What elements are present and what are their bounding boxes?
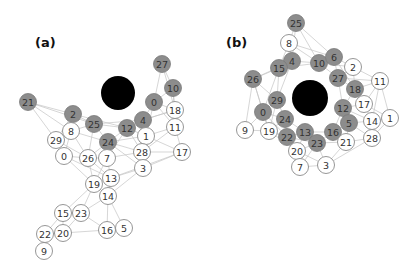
node-label: 18 xyxy=(349,84,361,95)
network-node: 11 xyxy=(167,119,184,136)
node-label: 11 xyxy=(169,122,181,133)
network-node: 24 xyxy=(100,134,117,151)
panel-a-label: (a) xyxy=(35,35,56,50)
node-label: 21 xyxy=(340,137,352,148)
network-node: 6 xyxy=(326,49,343,66)
node-label: 4 xyxy=(140,115,146,126)
network-node: 28 xyxy=(364,130,381,147)
network-node: 8 xyxy=(63,123,80,140)
network-node: 2 xyxy=(345,59,362,76)
node-label: 25 xyxy=(88,119,100,130)
network-node: 10 xyxy=(165,80,182,97)
node-label: 17 xyxy=(358,99,370,110)
network-node: 23 xyxy=(309,135,326,152)
node-label: 10 xyxy=(167,83,179,94)
network-node: 19 xyxy=(261,123,278,140)
node-label: 22 xyxy=(39,229,51,240)
network-node: 13 xyxy=(103,170,120,187)
node-label: 16 xyxy=(101,225,113,236)
network-node: 18 xyxy=(167,102,184,119)
node-label: 13 xyxy=(105,173,117,184)
network-node: 25 xyxy=(288,15,305,32)
panel-b-label: (b) xyxy=(226,35,247,50)
node-label: 3 xyxy=(323,160,329,171)
network-node: 1 xyxy=(138,128,155,145)
network-node: 19 xyxy=(86,176,103,193)
network-node: 23 xyxy=(73,205,90,222)
network-node: 0 xyxy=(146,94,163,111)
node-label: 5 xyxy=(121,223,127,234)
node-label: 23 xyxy=(311,138,323,149)
node-label: 5 xyxy=(346,118,352,129)
node-label: 27 xyxy=(332,73,344,84)
node-label: 15 xyxy=(57,208,69,219)
node-label: 0 xyxy=(61,151,67,162)
network-node: 22 xyxy=(279,129,296,146)
network-node: 28 xyxy=(134,144,151,161)
network-node: 20 xyxy=(289,143,306,160)
edge xyxy=(28,102,94,124)
node-label: 1 xyxy=(387,113,393,124)
hub-node-a xyxy=(101,76,135,110)
node-label: 26 xyxy=(82,153,94,164)
node-label: 24 xyxy=(279,114,291,125)
network-node: 15 xyxy=(271,60,288,77)
node-label: 21 xyxy=(22,97,34,108)
node-label: 22 xyxy=(281,132,293,143)
node-label: 0 xyxy=(151,97,157,108)
network-node: 7 xyxy=(292,159,309,176)
network-node: 2 xyxy=(65,106,82,123)
network-node: 10 xyxy=(311,55,328,72)
node-label: 17 xyxy=(176,147,188,158)
network-node: 12 xyxy=(335,100,352,117)
node-label: 2 xyxy=(350,62,356,73)
node-label: 14 xyxy=(102,191,114,202)
network-node: 5 xyxy=(116,220,133,237)
node-label: 13 xyxy=(299,127,311,138)
network-node: 8 xyxy=(281,35,298,52)
network-node: 7 xyxy=(99,150,116,167)
node-label: 9 xyxy=(242,125,248,136)
node-label: 25 xyxy=(290,18,302,29)
node-label: 7 xyxy=(297,162,303,173)
node-label: 18 xyxy=(169,105,181,116)
network-node: 16 xyxy=(99,222,116,239)
network-node: 26 xyxy=(80,150,97,167)
node-label: 8 xyxy=(286,38,292,49)
node-label: 3 xyxy=(140,163,146,174)
network-node: 20 xyxy=(55,225,72,242)
hub-node-b xyxy=(292,80,328,116)
network-node: 1 xyxy=(382,110,399,127)
node-label: 28 xyxy=(366,133,378,144)
node-label: 26 xyxy=(247,74,259,85)
network-node: 15 xyxy=(55,205,72,222)
node-label: 28 xyxy=(136,147,148,158)
network-node: 22 xyxy=(37,226,54,243)
network-node: 27 xyxy=(330,70,347,87)
node-label: 29 xyxy=(50,135,62,146)
network-node: 21 xyxy=(338,134,355,151)
network-node: 0 xyxy=(255,104,272,121)
network-node: 9 xyxy=(237,122,254,139)
network-node: 24 xyxy=(277,111,294,128)
network-node: 9 xyxy=(36,243,53,260)
network-node: 0 xyxy=(56,148,73,165)
node-label: 20 xyxy=(57,228,69,239)
network-node: 11 xyxy=(372,73,389,90)
node-label: 9 xyxy=(41,246,47,257)
network-node: 3 xyxy=(318,157,335,174)
panel-a: 2710018212258412111292402672817313191415… xyxy=(20,35,191,260)
node-label: 4 xyxy=(289,56,295,67)
network-node: 26 xyxy=(245,71,262,88)
node-label: 29 xyxy=(271,95,283,106)
network-node: 4 xyxy=(135,112,152,129)
network-node: 29 xyxy=(48,132,65,149)
node-label: 10 xyxy=(313,58,325,69)
node-label: 1 xyxy=(143,131,149,142)
node-label: 24 xyxy=(102,137,114,148)
network-node: 25 xyxy=(86,116,103,133)
node-label: 16 xyxy=(327,127,339,138)
node-label: 12 xyxy=(337,103,349,114)
node-label: 19 xyxy=(88,179,100,190)
network-node: 21 xyxy=(20,94,37,111)
